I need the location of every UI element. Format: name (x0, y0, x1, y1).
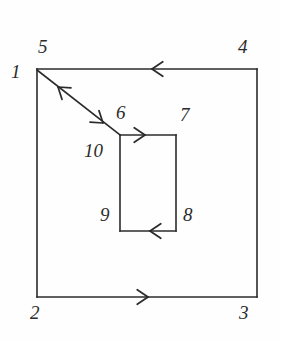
label-1: 1 (11, 62, 21, 81)
label-2: 2 (30, 303, 40, 322)
label-4: 4 (238, 37, 248, 56)
diagonal-cut-line (37, 70, 120, 135)
label-3: 3 (239, 303, 249, 322)
outer-boundary-square (37, 69, 257, 297)
label-5: 5 (38, 37, 48, 56)
label-9: 9 (100, 205, 110, 224)
figure-canvas: 15467109823 (0, 0, 281, 341)
label-10: 10 (84, 141, 103, 160)
label-7: 7 (180, 105, 190, 124)
label-6: 6 (116, 103, 126, 122)
label-8: 8 (183, 205, 193, 224)
inner-hole-rectangle (120, 135, 176, 231)
direction-arrowheads-group (54, 62, 163, 305)
